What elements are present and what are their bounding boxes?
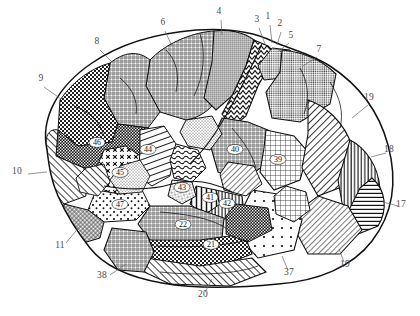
region-number-reg-45: 45 <box>116 168 124 177</box>
perimeter-label-lbl-17: 17 <box>396 199 406 209</box>
perimeter-label-lbl-6: 6 <box>161 17 166 27</box>
perimeter-label-lbl-2: 2 <box>278 18 283 28</box>
perimeter-label-lbl-5: 5 <box>289 30 294 40</box>
region-number-reg-42: 42 <box>223 199 231 208</box>
region-number-reg-43: 43 <box>178 183 186 192</box>
perimeter-label-lbl-20: 20 <box>198 289 208 299</box>
perimeter-label-lbl-3: 3 <box>255 14 260 24</box>
perimeter-label-lbl-10: 10 <box>12 166 22 176</box>
perimeter-label-lbl-18: 18 <box>384 144 394 154</box>
region-number-reg-46: 46 <box>93 138 101 147</box>
leader-line-9 <box>44 87 61 99</box>
region-number-reg-40: 40 <box>231 145 239 154</box>
perimeter-label-lbl-9: 9 <box>39 73 44 83</box>
perimeter-label-lbl-11: 11 <box>55 240 65 250</box>
leader-line-11 <box>66 226 80 243</box>
perimeter-label-lbl-8: 8 <box>95 36 100 46</box>
brain-figure: 689101143125719181719372038 464547444341… <box>0 0 420 316</box>
region-number-reg-22: 22 <box>179 220 187 229</box>
perimeter-label-lbl-7: 7 <box>317 44 322 54</box>
figure-caption <box>0 303 420 316</box>
perimeter-label-lbl-1: 1 <box>266 11 271 21</box>
cortical-field-group <box>30 20 400 300</box>
region-number-reg-41: 41 <box>206 193 214 202</box>
region-number-reg-39: 39 <box>274 155 282 164</box>
region-number-reg-44: 44 <box>144 145 152 154</box>
leader-line-10 <box>28 172 47 174</box>
leader-line-2 <box>277 32 281 45</box>
perimeter-label-lbl-19a: 19 <box>364 92 374 102</box>
perimeter-label-lbl-4: 4 <box>217 6 222 16</box>
brain-diagram-svg: 689101143125719181719372038 464547444341… <box>0 0 420 316</box>
perimeter-label-lbl-19b: 19 <box>340 259 350 269</box>
region-number-reg-47: 47 <box>116 200 124 209</box>
perimeter-label-lbl-38: 38 <box>97 270 107 280</box>
region-number-reg-21: 21 <box>207 240 215 249</box>
perimeter-label-lbl-37: 37 <box>284 267 294 277</box>
